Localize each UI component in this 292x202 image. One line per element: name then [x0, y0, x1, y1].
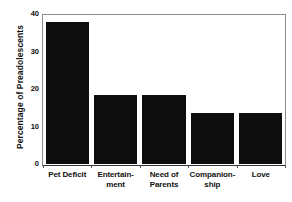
x-tick-label-line1: Companion-: [190, 170, 236, 179]
y-tick-label: 10: [5, 123, 39, 131]
bar-slot: [191, 14, 234, 164]
x-tick-label-line1: Pet Deficit: [48, 170, 86, 179]
x-tick-mark: [237, 165, 238, 168]
bar-chart: Percentage of Preadolescents 010203040 P…: [0, 0, 292, 202]
x-tick-mark: [140, 165, 141, 168]
bar-slot: [46, 14, 89, 164]
y-tick-label: 30: [5, 48, 39, 56]
y-tick-label: 20: [5, 85, 39, 93]
x-tick-mark: [91, 165, 92, 168]
bar[interactable]: [94, 95, 137, 164]
bar-slot: [94, 14, 137, 164]
y-tick-label: 0: [5, 160, 39, 168]
bar[interactable]: [191, 113, 234, 164]
bar-slot: [142, 14, 185, 164]
x-tick-label-line2: ship: [182, 180, 242, 190]
bar[interactable]: [239, 113, 282, 164]
x-tick-mark: [43, 165, 44, 168]
x-tick-label-line1: Need of: [150, 170, 179, 179]
bar[interactable]: [46, 22, 89, 165]
x-tick-label-line1: Love: [252, 170, 270, 179]
y-axis-tick-labels: 010203040: [0, 14, 39, 164]
y-tick-label: 40: [5, 10, 39, 18]
x-axis-ticks: [43, 165, 285, 169]
bar[interactable]: [142, 95, 185, 164]
x-tick-mark: [188, 165, 189, 168]
x-tick-mark: [285, 165, 286, 168]
x-tick-label: Love: [231, 170, 291, 180]
x-tick-label-line1: Entertain-: [97, 170, 133, 179]
bars-layer: [43, 14, 285, 164]
bar-slot: [239, 14, 282, 164]
x-axis-tick-labels: Pet DeficitEntertain-mentNeed ofParentsC…: [40, 170, 288, 200]
